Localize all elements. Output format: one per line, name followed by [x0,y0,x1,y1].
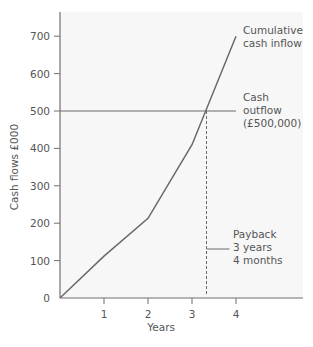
y-tick-label: 700 [30,30,50,42]
x-tick-label: 4 [233,308,240,320]
y-tick-label: 400 [30,142,50,154]
inflow-label: Cumulative [243,24,303,36]
payback-chart: 01002003004005006007001234YearsCash flow… [0,0,313,347]
outflow-label: (£500,000) [243,117,301,129]
payback-label: 4 months [233,254,283,266]
x-tick-label: 1 [101,308,108,320]
x-axis-label: Years [146,321,175,333]
outflow-label: Cash [243,91,269,103]
y-tick-label: 100 [30,255,50,267]
y-tick-label: 200 [30,217,50,229]
inflow-label: cash inflow [243,37,302,49]
x-tick-label: 3 [189,308,196,320]
payback-label: Payback [233,228,277,240]
y-tick-label: 500 [30,105,50,117]
y-tick-label: 300 [30,180,50,192]
y-tick-label: 0 [43,292,50,304]
payback-label: 3 years [233,241,272,253]
outflow-label: outflow [243,104,282,116]
x-tick-label: 2 [145,308,152,320]
y-axis-label: Cash flows £000 [8,124,20,210]
y-tick-label: 600 [30,68,50,80]
